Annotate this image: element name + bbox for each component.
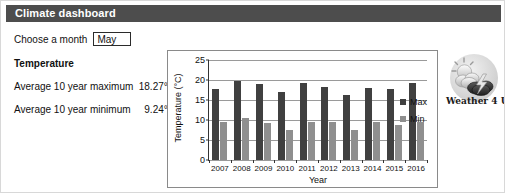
legend-label-max: Max	[410, 97, 427, 107]
logo-caption: Weather 4 U	[446, 96, 504, 106]
x-tick-mark	[427, 160, 428, 163]
x-tick-mark	[383, 160, 384, 163]
page-title: Climate dashboard	[15, 7, 116, 19]
chart-legend: MaxMin	[400, 97, 427, 131]
x-tick-mark	[362, 160, 363, 163]
bar-max-2014	[365, 88, 372, 160]
header-bar: Climate dashboard	[6, 5, 501, 22]
bar-max-2007	[212, 89, 219, 160]
month-select[interactable]: May	[93, 32, 131, 46]
temperature-chart: Temperature (°C) 05101520252007200820092…	[167, 50, 438, 188]
bar-group	[209, 60, 231, 160]
bar-group	[231, 60, 253, 160]
month-label: Choose a month	[14, 34, 87, 45]
bar-max-2008	[234, 81, 241, 160]
bar-min-2014	[373, 122, 380, 160]
bar-min-2008	[242, 118, 249, 160]
x-tick-label: 2007	[211, 164, 229, 173]
x-tick-mark	[296, 160, 297, 163]
bar-group	[274, 60, 296, 160]
y-tick-label: 25	[195, 55, 205, 65]
x-tick-mark	[340, 160, 341, 163]
y-tick-label: 10	[195, 115, 205, 125]
bar-group	[318, 60, 340, 160]
bar-min-2010	[286, 130, 293, 160]
y-axis-title: Temperature (°C)	[173, 70, 183, 146]
x-tick-mark	[405, 160, 406, 163]
bar-group	[362, 60, 384, 160]
bar-max-2011	[300, 83, 307, 160]
x-tick-label: 2012	[320, 164, 338, 173]
legend-label-min: Min	[410, 114, 425, 124]
bar-group	[340, 60, 362, 160]
x-tick-label: 2011	[298, 164, 315, 173]
bar-max-2012	[321, 87, 328, 160]
x-tick-mark	[253, 160, 254, 163]
x-tick-mark	[274, 160, 275, 163]
temperature-section-title: Temperature	[14, 58, 179, 69]
bar-group	[296, 60, 318, 160]
chart-inner: Temperature (°C) 05101520252007200820092…	[168, 51, 437, 187]
x-tick-label: 2009	[255, 164, 273, 173]
legend-swatch-max	[400, 99, 406, 105]
legend-item-max[interactable]: Max	[400, 97, 427, 107]
bar-max-2015	[387, 89, 394, 160]
climate-dashboard-page: Climate dashboard Choose a month May Tem…	[0, 0, 505, 193]
x-tick-label: 2010	[276, 164, 294, 173]
bar-min-2012	[329, 122, 336, 160]
x-tick-label: 2013	[342, 164, 360, 173]
bar-max-2010	[278, 92, 285, 160]
left-panel: Choose a month May Temperature Average 1…	[14, 31, 179, 127]
bar-max-2009	[256, 84, 263, 160]
stat-label-max: Average 10 year maximum	[14, 81, 133, 92]
x-axis-title: Year	[209, 175, 427, 185]
bar-min-2013	[351, 130, 358, 160]
legend-swatch-min	[400, 116, 406, 122]
x-tick-label: 2015	[385, 164, 403, 173]
bar-min-2007	[220, 122, 227, 160]
x-tick-mark	[231, 160, 232, 163]
month-selector-row: Choose a month May	[14, 31, 179, 47]
bar-min-2011	[308, 122, 315, 160]
x-tick-label: 2008	[233, 164, 251, 173]
bar-max-2013	[343, 95, 350, 160]
x-tick-label: 2014	[364, 164, 382, 173]
x-tick-mark	[318, 160, 319, 163]
y-tick-label: 5	[200, 135, 205, 145]
bar-min-2009	[264, 123, 271, 160]
stat-row: Average 10 year maximum 18.27°C	[14, 81, 175, 92]
x-tick-mark	[209, 160, 210, 163]
y-tick-label: 0	[200, 155, 205, 165]
stat-row: Average 10 year minimum 9.24°C	[14, 104, 175, 115]
y-tick-label: 15	[195, 95, 205, 105]
bar-group	[253, 60, 275, 160]
legend-item-min[interactable]: Min	[400, 114, 427, 124]
x-tick-label: 2016	[407, 164, 425, 173]
stat-label-min: Average 10 year minimum	[14, 104, 131, 115]
plot-area: 0510152025200720082009201020112012201320…	[209, 60, 427, 160]
y-tick-label: 20	[195, 75, 205, 85]
